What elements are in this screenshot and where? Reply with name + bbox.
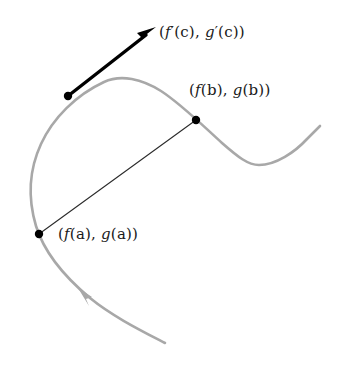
point-b-comma: ,: [223, 81, 233, 99]
point-a-marker: [35, 230, 43, 238]
point-b-marker: [192, 116, 200, 124]
point-c-marker: [64, 92, 72, 100]
point-a-close-paren: ): [132, 225, 138, 243]
tangent-label-comma: ,: [195, 23, 205, 41]
tangent-vector-shaft: [68, 35, 146, 96]
tangent-label-f-arg: (c): [174, 23, 195, 41]
tangent-vector-label: (f′(c), g′(c)): [159, 25, 245, 40]
point-b-g: g: [233, 81, 243, 99]
tangent-label-close-paren: ): [239, 23, 245, 41]
point-a-g: g: [101, 225, 111, 243]
point-b-f-arg: (b): [201, 81, 223, 99]
figure-canvas: [0, 0, 341, 377]
tangent-arrowhead-icon: [134, 27, 156, 44]
point-b-g-arg: (b): [242, 81, 264, 99]
point-a-comma: ,: [91, 225, 101, 243]
point-b-close-paren: ): [264, 81, 270, 99]
point-a-label: (f(a), g(a)): [58, 227, 138, 242]
tangent-label-g: g: [205, 23, 215, 41]
mvt-parametric-figure: (f′(c), g′(c)) (f(b), g(b)) (f(a), g(a)): [0, 0, 341, 377]
point-b-label: (f(b), g(b)): [189, 83, 270, 98]
parametric-curve: [31, 78, 320, 343]
point-a-g-arg: (a): [111, 225, 132, 243]
tangent-label-g-arg: (c): [218, 23, 239, 41]
point-a-f-arg: (a): [70, 225, 91, 243]
secant-chord: [39, 120, 196, 234]
orientation-arrowhead-icon: [78, 288, 92, 306]
